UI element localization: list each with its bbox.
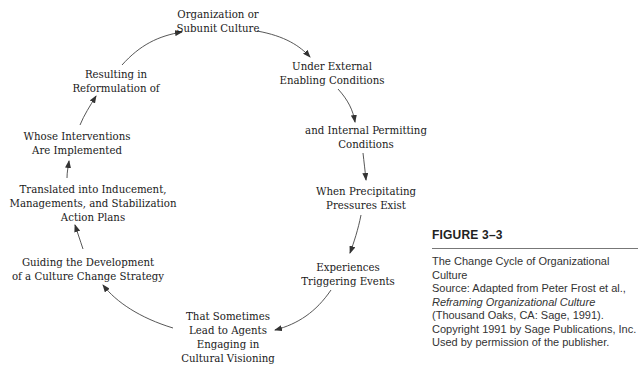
arrow-n3-n4 [363, 153, 366, 180]
node-reformulation: Resulting in Reformulation of [72, 68, 159, 96]
node-precipitating-pressures: When Precipitating Pressures Exist [316, 185, 416, 213]
arrow-n5-n6 [275, 290, 331, 330]
source-book-title: Reframing Organizational Culture [432, 296, 595, 308]
arrow-n4-n5 [350, 215, 361, 253]
figure-caption: FIGURE 3–3 The Change Cycle of Organizat… [432, 228, 638, 350]
node-triggering-events: Experiences Triggering Events [301, 261, 395, 289]
arrow-n10-n1 [122, 32, 182, 65]
figure-label: FIGURE 3–3 [432, 228, 638, 249]
node-internal-permitting-conditions: and Internal Permitting Conditions [305, 124, 427, 152]
source-suffix: (Thousand Oaks, CA: Sage, 1991). Copyrig… [432, 309, 636, 348]
arrow-n8-n9 [67, 161, 69, 178]
source-prefix: Source: Adapted from Peter Frost et al., [432, 282, 626, 294]
arrow-n9-n10 [80, 96, 96, 125]
arrow-n7-n8 [75, 225, 83, 249]
arrow-n2-n3 [338, 89, 355, 122]
node-external-enabling-conditions: Under External Enabling Conditions [280, 60, 385, 88]
node-interventions-implemented: Whose Interventions Are Implemented [24, 130, 131, 158]
figure-title: The Change Cycle of Organizational Cultu… [432, 255, 638, 282]
node-cultural-visioning: That Sometimes Lead to Agents Engaging i… [181, 310, 275, 366]
figure-source: Source: Adapted from Peter Frost et al.,… [432, 282, 638, 350]
node-action-plans: Translated into Inducement, Managements,… [9, 183, 176, 225]
node-culture-change-strategy: Guiding the Development of a Culture Cha… [12, 256, 164, 284]
node-organization-culture: Organization or Subunit Culture [177, 8, 260, 36]
arrow-n6-n7 [103, 285, 173, 328]
arrow-n1-n2 [257, 31, 310, 57]
